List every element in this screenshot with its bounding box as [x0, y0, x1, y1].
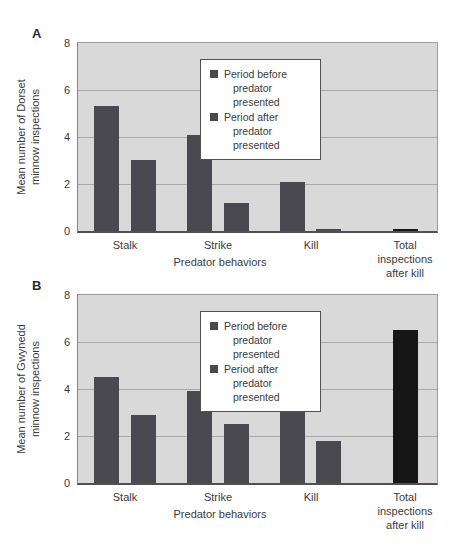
panel-label-a: A — [32, 26, 41, 41]
x-tick-label-a-3: Total inspections after kill — [359, 238, 451, 280]
legend-line2: predator presented — [224, 333, 312, 361]
legend-text: Period afterpredator presented — [224, 110, 312, 152]
y-tick-label-a-2: 2 — [48, 177, 70, 191]
x-tick-label-a-0: Stalk — [79, 238, 171, 252]
y-axis-label-b: Mean number of Gwynedd minnow inspection… — [13, 295, 43, 483]
legend-entry-a-before: Period beforepredator presented — [210, 67, 312, 109]
legend-line2: predator presented — [224, 376, 312, 404]
y-tick-label-a-4: 4 — [48, 130, 70, 144]
y-tick-label-b-0: 0 — [48, 476, 70, 490]
x-tick-label-b-0: Stalk — [79, 490, 171, 504]
x-tick-label-b-3: Total inspections after kill — [359, 490, 451, 532]
legend-entry-b-before: Period beforepredator presented — [210, 319, 312, 361]
bar-b-before-0 — [94, 377, 119, 483]
legend-line1: Period before — [224, 319, 312, 333]
x-tick-label-b-2: Kill — [265, 490, 357, 504]
bar-b-total-3 — [393, 330, 418, 483]
panel-label-b: B — [32, 278, 41, 293]
bar-a-before-0 — [94, 106, 119, 231]
bar-b-after-0 — [131, 415, 156, 483]
y-tick-label-a-8: 8 — [48, 36, 70, 50]
y-tick-label-b-8: 8 — [48, 288, 70, 302]
y-tick-label-a-0: 0 — [48, 224, 70, 238]
legend-swatch-icon — [210, 322, 218, 330]
legend-line2: predator presented — [224, 81, 312, 109]
y-axis-label-a: Mean number of Dorset minnow inspections — [13, 43, 43, 231]
x-axis-title-b: Predator behaviors — [145, 507, 295, 521]
legend-line1: Period after — [224, 362, 312, 376]
legend-swatch-icon — [210, 365, 218, 373]
y-tick-label-b-4: 4 — [48, 382, 70, 396]
y-tick-label-b-6: 6 — [48, 335, 70, 349]
legend-line1: Period before — [224, 67, 312, 81]
x-tick-label-a-1: Strike — [172, 238, 264, 252]
y-tick-label-b-2: 2 — [48, 429, 70, 443]
bar-a-after-2 — [316, 229, 341, 231]
y-tick-label-a-6: 6 — [48, 83, 70, 97]
legend-entry-b-after: Period afterpredator presented — [210, 362, 312, 404]
x-axis-title-a: Predator behaviors — [145, 255, 295, 269]
legend-text: Period beforepredator presented — [224, 319, 312, 361]
legend-text: Period beforepredator presented — [224, 67, 312, 109]
legend-entry-a-after: Period afterpredator presented — [210, 110, 312, 152]
x-tick-label-a-2: Kill — [265, 238, 357, 252]
bar-b-after-2 — [316, 441, 341, 483]
legend-line1: Period after — [224, 110, 312, 124]
legend-a: Period beforepredator presentedPeriod af… — [200, 59, 321, 160]
legend-text: Period afterpredator presented — [224, 362, 312, 404]
legend-b: Period beforepredator presentedPeriod af… — [200, 311, 321, 412]
legend-line2: predator presented — [224, 124, 312, 152]
legend-swatch-icon — [210, 70, 218, 78]
bar-a-before-2 — [280, 182, 305, 231]
x-tick-label-b-1: Strike — [172, 490, 264, 504]
figure-two-panel-bar-chart: AMean number of Dorset minnow inspection… — [0, 0, 458, 551]
bar-b-after-1 — [224, 424, 249, 483]
bar-a-total-3 — [393, 229, 418, 231]
legend-swatch-icon — [210, 113, 218, 121]
bar-a-after-1 — [224, 203, 249, 231]
bar-b-before-2 — [280, 405, 305, 483]
bar-a-after-0 — [131, 160, 156, 231]
